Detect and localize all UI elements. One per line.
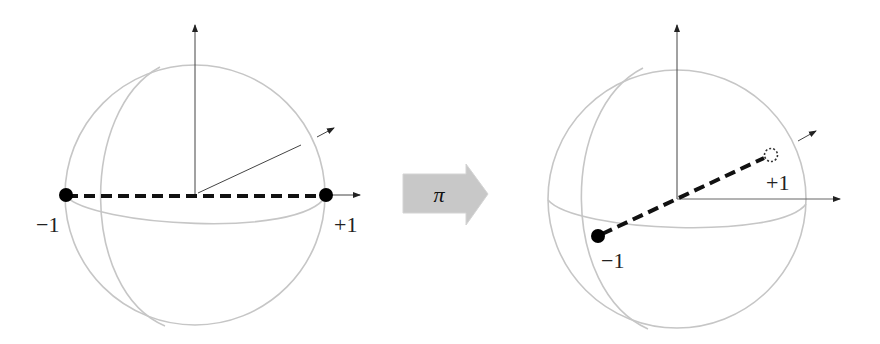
pi-rotation-arrow: π	[403, 164, 488, 225]
dashed-diameter	[602, 158, 764, 234]
point-plus-one	[319, 188, 333, 202]
point-minus-one	[591, 229, 605, 243]
equator-arc	[66, 196, 326, 224]
equator-arc	[548, 200, 806, 228]
y-axis-outer	[317, 128, 334, 137]
point-minus-one	[59, 188, 73, 202]
label-plus-one: +1	[334, 212, 357, 237]
point-plus-one-hidden	[765, 149, 778, 162]
label-minus-one: −1	[36, 212, 59, 237]
bloch-sphere-rotation-figure: −1 +1 π +1 −1	[0, 0, 880, 344]
pi-label: π	[433, 182, 445, 207]
y-axis-outer	[798, 131, 816, 141]
meridian-arc	[581, 68, 648, 329]
label-plus-one: +1	[766, 170, 789, 195]
label-minus-one: −1	[601, 248, 624, 273]
y-axis-inner	[198, 145, 301, 193]
right-sphere: +1 −1	[548, 25, 840, 329]
left-sphere: −1 +1	[36, 25, 360, 326]
